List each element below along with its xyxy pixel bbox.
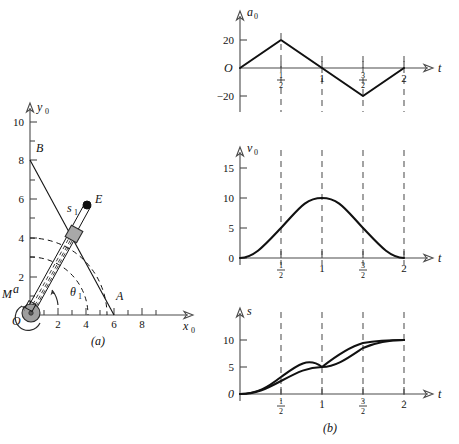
x-tick-label-2: 2 bbox=[55, 318, 61, 330]
arm-hatch-1 bbox=[30, 233, 73, 311]
slider-distance-label: s bbox=[67, 201, 72, 215]
vel-y-tick-label-10: 10 bbox=[223, 192, 235, 204]
disp-x-tick-label-one: 1 bbox=[319, 398, 325, 410]
accel-y-tick-label-neg20: −20 bbox=[217, 90, 235, 102]
disp-y-axis-label: s bbox=[247, 304, 252, 318]
vel-y-tick-label-5: 5 bbox=[229, 222, 235, 234]
vel-y-axis-label-sub: 0 bbox=[254, 148, 258, 157]
arm-edge-left bbox=[27, 231, 70, 309]
disp-x-tick-label-threehalf: 3 2 bbox=[359, 397, 367, 416]
x-axis-label: x bbox=[182, 319, 189, 333]
chart-acceleration: 20 −20 a 0 O 1 2 1 3 2 2 t bbox=[217, 5, 442, 112]
disp-y-tick-label-5: 5 bbox=[229, 361, 235, 373]
origin-label-a: O bbox=[12, 314, 21, 328]
accel-y-axis-label: a bbox=[247, 5, 253, 19]
point-B-label: B bbox=[36, 141, 44, 155]
frac-num-half-s: 1 bbox=[279, 397, 283, 406]
frac-num-half: 1 bbox=[279, 71, 283, 80]
point-E-label: E bbox=[94, 192, 103, 206]
point-E-marker bbox=[83, 201, 91, 209]
x-tick-label-8: 8 bbox=[139, 318, 145, 330]
frac-den-half-s: 2 bbox=[279, 407, 283, 416]
accel-x-tick-label-threehalf: 3 2 bbox=[359, 71, 367, 90]
frac-num-threehalf-s: 3 bbox=[361, 397, 365, 406]
arm-hatch-2 bbox=[32, 234, 75, 312]
accel-y-axis-label-sub: 0 bbox=[254, 12, 258, 21]
accel-x-tick-label-two: 2 bbox=[401, 72, 407, 84]
accel-origin-label: O bbox=[224, 61, 233, 75]
figure-container: 10 8 6 4 2 y 0 2 4 6 8 x 0 O bbox=[0, 0, 459, 444]
vel-x-tick-label-half: 1 2 bbox=[277, 261, 285, 280]
frac-den-threehalf: 2 bbox=[361, 81, 365, 90]
disp-y-tick-label-0: 0 bbox=[228, 387, 234, 401]
caption-panel-b: (b) bbox=[323, 421, 337, 435]
angle-label: θ bbox=[70, 285, 76, 299]
accel-y-tick-label-20: 20 bbox=[223, 34, 235, 46]
arm-hatch-3 bbox=[33, 234, 76, 312]
frac-num-threehalf: 3 bbox=[361, 71, 365, 80]
y-tick-label-4: 4 bbox=[19, 232, 25, 244]
y-tick-label-2: 2 bbox=[19, 271, 25, 283]
point-A-label: A bbox=[115, 289, 124, 303]
vel-x-tick-label-one: 1 bbox=[319, 262, 325, 274]
frac-den-threehalf-s: 2 bbox=[361, 407, 365, 416]
x-tick-label-4: 4 bbox=[83, 318, 89, 330]
y-axis-label: y bbox=[36, 100, 43, 114]
vel-x-tick-label-two: 2 bbox=[401, 262, 407, 274]
chart-displacement: 0 5 10 s 1 2 1 3 2 2 t (b) bbox=[223, 304, 442, 435]
accel-x-tick-label-one: 1 bbox=[319, 72, 325, 84]
disp-y-tick-label-10: 10 bbox=[223, 334, 235, 346]
arc-radius-3 bbox=[30, 257, 88, 315]
frac-num-threehalf-v: 3 bbox=[361, 261, 365, 270]
vel-y-axis-label: v bbox=[247, 141, 253, 155]
panel-b-gridlines bbox=[281, 33, 404, 401]
y-tick-label-10: 10 bbox=[13, 116, 25, 128]
panel-a-mechanism: 10 8 6 4 2 y 0 2 4 6 8 x 0 O bbox=[1, 100, 195, 348]
chart-velocity: 0 5 10 15 v 0 1 2 1 3 2 2 t bbox=[223, 141, 442, 280]
y-tick-label-8: 8 bbox=[19, 154, 25, 166]
y-axis-label-sub: 0 bbox=[45, 107, 49, 116]
frac-den-half-v: 2 bbox=[279, 271, 283, 280]
disp-x-tick-label-two: 2 bbox=[401, 398, 407, 410]
slider-distance-sub: 1 bbox=[74, 208, 78, 217]
vel-x-axis-label: t bbox=[438, 251, 442, 265]
frac-den-half: 2 bbox=[279, 81, 283, 90]
disp-x-axis-label: t bbox=[438, 387, 442, 401]
accel-x-tick-label-half: 1 2 bbox=[277, 71, 285, 90]
vel-x-tick-label-threehalf: 3 2 bbox=[359, 261, 367, 280]
angle-label-sub: 1 bbox=[78, 292, 82, 301]
x-tick-label-6: 6 bbox=[111, 318, 117, 330]
caption-panel-a: (a) bbox=[91, 334, 105, 348]
frac-den-threehalf-v: 2 bbox=[361, 271, 365, 280]
y-tick-label-6: 6 bbox=[19, 193, 25, 205]
moment-label-sup: a bbox=[13, 282, 19, 296]
x-axis-label-sub: 0 bbox=[191, 326, 195, 335]
disp-x-tick-label-half: 1 2 bbox=[277, 397, 285, 416]
vel-y-tick-label-0: 0 bbox=[229, 252, 235, 264]
frac-num-half-v: 1 bbox=[279, 261, 283, 270]
accel-x-axis-label: t bbox=[438, 61, 442, 75]
figure-svg: 10 8 6 4 2 y 0 2 4 6 8 x 0 O bbox=[0, 0, 459, 444]
vel-y-tick-label-15: 15 bbox=[223, 162, 235, 174]
moment-label: M bbox=[1, 287, 13, 301]
